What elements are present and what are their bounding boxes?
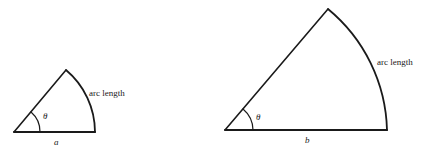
small-sector-theta-label: θ (43, 111, 48, 121)
small-sector-radius-label: a (54, 137, 59, 147)
large-sector-arc-label: arc length (377, 57, 413, 67)
large-sector-radius-label: b (305, 135, 310, 145)
small-sector-angle-arc (31, 112, 40, 132)
small-sector-arc (66, 70, 95, 132)
large-sector-angle-arc (243, 109, 253, 130)
large-sector-theta-label: θ (256, 112, 261, 122)
diagram-canvas: θ a arc length θ b arc length (0, 0, 430, 155)
large-sector-upper-radius (225, 9, 328, 130)
small-sector: θ a arc length (14, 70, 125, 147)
small-sector-upper-radius (14, 70, 66, 132)
small-sector-arc-label: arc length (89, 88, 125, 98)
large-sector: θ b arc length (225, 9, 413, 145)
large-sector-arc (328, 9, 387, 130)
